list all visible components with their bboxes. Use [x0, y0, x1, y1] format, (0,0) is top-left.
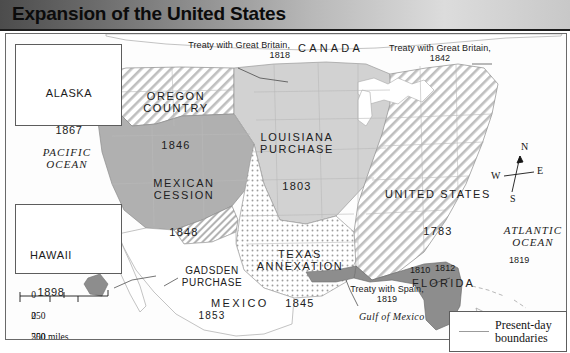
legend-label: Present-day boundaries [495, 319, 552, 345]
map-legend: Present-day boundaries [449, 311, 567, 352]
map-screenshot: Expansion of the United States [0, 0, 570, 353]
page-title: Expansion of the United States [12, 3, 286, 25]
title-banner: Expansion of the United States [0, 0, 570, 31]
hawaii-inset-box [15, 204, 122, 274]
alaska-inset-box [15, 44, 122, 126]
legend-label-text: Present-day boundaries [495, 318, 552, 345]
map-canvas: ALASKA 1867 HAWAII 1898 PACIFIC OCEAN AT… [5, 33, 567, 340]
legend-boundary-line-sample [459, 331, 489, 332]
